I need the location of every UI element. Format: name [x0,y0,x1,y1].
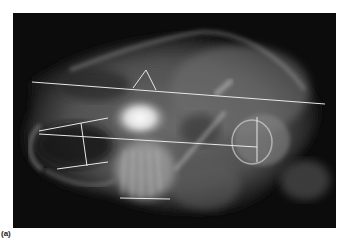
skull-radiograph [13,13,336,228]
xray-figure [13,13,336,228]
upper-teeth [112,98,168,138]
figure-caption: (a) [1,229,11,238]
